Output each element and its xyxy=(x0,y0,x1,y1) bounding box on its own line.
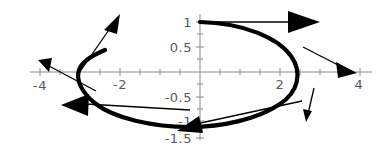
y-tick-label-1: 1 xyxy=(183,15,192,30)
y-tick-label-0.5: 0.5 xyxy=(170,40,192,55)
x-tick-label-4: 4 xyxy=(355,77,364,92)
x-tick-label--2: -2 xyxy=(113,77,127,92)
tangent-vector-upper-left xyxy=(79,14,120,73)
y-tick-label--0.5: -0.5 xyxy=(165,90,192,105)
y-tick-label--1.5: -1.5 xyxy=(165,131,192,146)
plot-canvas: -4 -2 2 4 1 0.5 -0.5 -1 -1.5 xyxy=(0,0,390,150)
tangent-vector-bottom xyxy=(177,101,302,133)
tangent-vector-top-right xyxy=(200,11,320,33)
x-tick-label--4: -4 xyxy=(33,78,47,93)
parametric-loop-curve xyxy=(78,22,297,127)
curve-group xyxy=(78,22,297,127)
x-tick-label-2: 2 xyxy=(276,77,285,92)
tangent-vector-right xyxy=(303,47,357,78)
tangent-vector-down xyxy=(303,88,314,122)
plot-figure: -4 -2 2 4 1 0.5 -0.5 -1 -1.5 xyxy=(0,0,390,150)
